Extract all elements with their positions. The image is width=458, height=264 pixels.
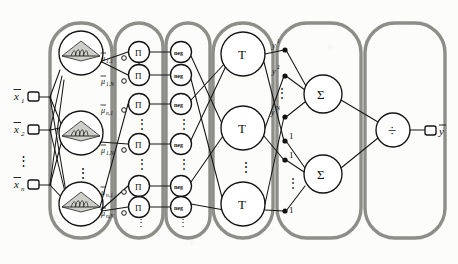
tnorm-node-symbol: T [238,197,246,212]
weight-label-sub: 1,N [106,150,114,156]
y-label-sup: 1 [277,38,280,44]
tnorm-vdots: ⋮ [239,160,253,175]
input-label-xn-sub: n [21,185,25,193]
negation-node-label: neg [174,184,183,190]
weight-label: μ n,1 [100,187,113,198]
y-label-base: y [271,67,276,76]
negation-node-label: neg [174,73,183,79]
input-label-x2-base: x [13,123,19,135]
product-node-symbol: Π [135,203,142,213]
weight-label-sub: n,N [106,213,114,219]
negation-node-label: neg [174,142,183,148]
negation-node-label: neg [174,205,183,211]
weight-label: μ n,1 [100,105,113,116]
one-vdots: ⋮ [287,176,299,190]
input-vdots: ⋮ [17,153,30,168]
output-label-base: y [438,125,444,137]
weight-label-sub: n,1 [106,192,113,198]
weight-label-sub: 1,1 [106,58,113,64]
product-vdots: ⋮ [136,117,148,131]
input-label-x1-sub: 1 [21,97,25,105]
y-label-1: y 1 [271,38,280,50]
one-label: 1 [289,205,294,215]
input-label-x2: x 2 [13,123,25,139]
product-node-symbol: Π [135,100,142,110]
negation-node-label: neg [174,102,183,108]
division-node-symbol: ÷ [388,123,396,139]
product-node-symbol: Π [135,71,142,81]
weight-label: μ 1,N [100,76,114,87]
weight-label-greek: μ [100,146,105,155]
product-node-symbol: Π [135,140,142,150]
input-label-x2-sub: 2 [21,130,25,138]
input-label-xn-base: x [13,178,19,190]
weight-label: μ n,N [100,208,114,219]
sum-node-symbol: Σ [317,167,325,182]
weight-label-greek: μ [100,54,105,63]
weight-label-greek: μ [100,77,105,86]
negation-node-label: neg [174,50,183,56]
label-overlay-svg: x 1 x 2 x n ⋮ ⋮ Π Π Π Π Π Π ⋮ ⋮ ⋮ μ 1,1 … [0,0,458,264]
y-label-N: y N [270,105,280,117]
product-node-symbol: Π [135,48,142,58]
weight-label-greek: μ [100,106,105,115]
weight-label-sub: 1,N [106,81,114,87]
weight-label: μ 1,1 [100,53,113,64]
y-label-2: y 2 [271,64,280,76]
input-label-x1: x 1 [13,90,25,106]
sum-node-symbol: Σ [317,87,325,102]
tnorm-node-symbol: T [238,121,246,136]
y-vdots: ⋮ [276,86,288,100]
weight-label-sub: n,1 [106,110,113,116]
y-label-base: y [270,108,275,117]
input-label-xn: x n [13,178,25,194]
one-label: 1 [289,131,294,141]
figure-canvas: .lay{fill:none;stroke:#8e8e88;stroke-wid… [0,0,458,264]
negation-vdots: ⋮ [178,157,190,171]
weight-label-greek: μ [100,209,105,218]
weight-label-greek: μ [100,188,105,197]
y-label-sup: 2 [277,64,280,70]
product-node-symbol: Π [135,182,142,192]
one-label: 1 [289,150,294,160]
weight-label: μ 1,N [100,145,114,156]
output-label: y [438,125,446,137]
negation-vdots: ⋮ [178,217,188,228]
negation-vdots: ⋮ [178,117,190,131]
product-vdots: ⋮ [136,217,146,228]
product-vdots: ⋮ [136,157,148,171]
tnorm-node-symbol: T [238,47,246,62]
input-label-x1-base: x [13,90,19,102]
y-label-base: y [271,41,276,50]
y-label-sup: N [276,105,280,111]
membership-vdots: ⋮ [76,166,90,181]
